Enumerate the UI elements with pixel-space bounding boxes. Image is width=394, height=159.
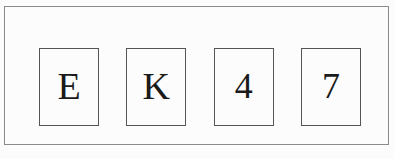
- character-glyph-4: 7: [322, 68, 340, 104]
- character-box-1: E: [39, 48, 99, 126]
- captcha-widget: E K 4 7: [0, 0, 394, 159]
- character-box-2: K: [126, 48, 186, 126]
- captcha-outer-frame: E K 4 7: [4, 6, 389, 145]
- character-glyph-2: K: [143, 67, 170, 105]
- character-box-4: 7: [301, 48, 361, 126]
- character-glyph-1: E: [57, 67, 80, 105]
- character-box-3: 4: [214, 48, 274, 126]
- character-box-row: E K 4 7: [39, 48, 361, 126]
- character-glyph-3: 4: [235, 68, 253, 104]
